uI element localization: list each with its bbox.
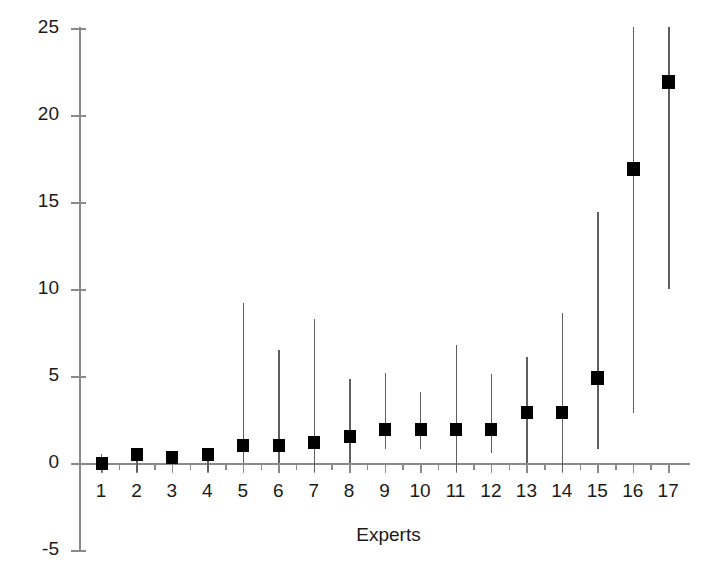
x-axis-tick [243, 463, 245, 473]
data-point-marker [131, 448, 143, 461]
y-axis-tick-label: 0 [15, 451, 59, 473]
y-axis-tick-label: 10 [15, 277, 59, 299]
data-point-marker [96, 457, 108, 470]
error-bar [456, 345, 457, 472]
error-bar [633, 27, 634, 413]
x-axis-tick-label: 3 [152, 480, 192, 502]
y-axis-tick-label: 5 [15, 364, 59, 386]
x-axis-minor-tick [650, 463, 652, 470]
y-axis-tick [71, 28, 86, 30]
data-point-marker [344, 430, 356, 443]
x-axis-minor-tick [615, 463, 617, 470]
x-axis-tick [420, 463, 422, 473]
y-axis-tick-label: 15 [15, 190, 59, 212]
data-point-marker [521, 406, 533, 419]
data-point-marker [308, 436, 320, 449]
y-axis-tick-label: -5 [15, 538, 59, 560]
error-bar [562, 313, 563, 471]
y-axis-tick [71, 202, 86, 204]
x-axis-minor-tick [190, 463, 192, 470]
x-axis-tick-label: 11 [436, 480, 476, 502]
plot-area: -505101520251234567891011121314151617 [0, 0, 713, 584]
error-bar [349, 379, 350, 463]
x-axis-tick [526, 463, 528, 473]
error-bar [597, 212, 598, 449]
x-axis-tick-label: 12 [471, 480, 511, 502]
x-axis-tick-label: 2 [116, 480, 156, 502]
x-axis-minor-tick [261, 463, 263, 470]
x-axis-tick-label: 9 [365, 480, 405, 502]
x-axis-tick-label: 16 [613, 480, 653, 502]
x-axis-minor-tick [473, 463, 475, 470]
x-axis-minor-tick [438, 463, 440, 470]
x-axis-tick [633, 463, 635, 473]
data-point-marker [485, 423, 497, 436]
data-point-marker [273, 439, 285, 452]
x-axis-tick [597, 463, 599, 473]
y-axis-tick-label: 20 [15, 103, 59, 125]
y-axis-tick [71, 463, 86, 465]
x-axis-tick-label: 10 [400, 480, 440, 502]
x-axis-minor-tick [154, 463, 156, 470]
x-axis-tick [172, 463, 174, 473]
x-axis-tick-label: 6 [258, 480, 298, 502]
x-axis-tick [668, 463, 670, 473]
y-axis-tick [71, 376, 86, 378]
data-point-marker [166, 451, 178, 464]
x-axis-minor-tick [367, 463, 369, 470]
x-axis-tick-label: 15 [577, 480, 617, 502]
x-axis-minor-tick [544, 463, 546, 470]
error-bar [668, 27, 669, 289]
error-bar [314, 319, 315, 472]
y-axis-tick [71, 115, 86, 117]
x-axis-tick [385, 463, 387, 473]
y-axis-tick-label: 25 [15, 16, 59, 38]
y-axis-tick [71, 289, 86, 291]
y-axis-tick [71, 550, 86, 552]
x-axis-minor-tick [119, 463, 121, 470]
x-axis-tick-label: 4 [187, 480, 227, 502]
x-axis-minor-tick [509, 463, 511, 470]
error-bar [385, 373, 386, 450]
x-axis-tick-label: 13 [506, 480, 546, 502]
x-axis-tick-label: 8 [329, 480, 369, 502]
error-bar [420, 392, 421, 449]
data-point-marker [662, 75, 675, 89]
x-axis-minor-tick [225, 463, 227, 470]
x-axis-minor-tick [580, 463, 582, 470]
x-axis-tick [278, 463, 280, 473]
x-axis-tick [349, 463, 351, 473]
chart-figure: Loss of gross world product (%) Experts … [0, 0, 713, 584]
data-point-marker [202, 448, 214, 461]
x-axis-tick-label: 1 [81, 480, 121, 502]
data-point-marker [450, 423, 462, 436]
data-point-marker [379, 423, 391, 436]
data-point-marker [556, 406, 568, 419]
data-point-marker [591, 371, 604, 385]
x-axis-minor-tick [331, 463, 333, 470]
error-bar [491, 374, 492, 452]
x-axis-minor-tick [296, 463, 298, 470]
data-point-marker [627, 162, 640, 176]
x-axis-tick [491, 463, 493, 473]
x-axis-tick-label: 7 [294, 480, 334, 502]
x-axis-tick-label: 17 [648, 480, 688, 502]
data-point-marker [415, 423, 427, 436]
x-axis-minor-tick [402, 463, 404, 470]
data-point-marker [237, 439, 249, 452]
x-axis-tick-label: 14 [542, 480, 582, 502]
x-axis-tick-label: 5 [223, 480, 263, 502]
